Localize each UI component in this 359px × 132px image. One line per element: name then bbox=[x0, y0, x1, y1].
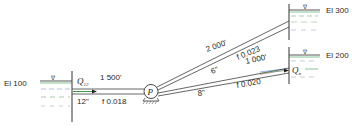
ground-hatch-icon bbox=[143, 101, 157, 104]
pump-label: P bbox=[147, 87, 154, 97]
water-surface-symbol: ∇ bbox=[50, 74, 56, 81]
flow-arrow-icon bbox=[284, 69, 289, 73]
pipe-friction-label: f 0.020 bbox=[236, 77, 262, 90]
pipe-diameter-label: 8" bbox=[197, 88, 206, 98]
reservoir-el300: ∇ El 300 bbox=[289, 3, 349, 40]
pipe-upper: 2 000' 6" f 0.023 bbox=[157, 21, 289, 90]
pump-support bbox=[143, 98, 145, 101]
pipe-lower: 8" 1 000' f 0.020 bbox=[158, 53, 289, 98]
water-surface-symbol: ∇ bbox=[302, 48, 308, 55]
reservoir-el100: ∇ El 100 bbox=[4, 71, 72, 122]
reservoir-el200: ∇ El 200 Qn bbox=[289, 47, 349, 84]
flow-arrow-icon bbox=[92, 90, 97, 94]
water-surface-symbol: ∇ bbox=[302, 3, 308, 10]
elevation-label: El 100 bbox=[4, 79, 27, 88]
pipe-friction-label: f 0.018 bbox=[102, 97, 127, 106]
pipe-diameter-label: 6" bbox=[210, 65, 220, 76]
elevation-label: El 200 bbox=[326, 51, 349, 60]
elevation-label: El 300 bbox=[326, 6, 349, 15]
pipe-network-diagram: ∇ El 100 Q12 1 500' 12" f 0.018 P 2 000'… bbox=[0, 0, 359, 132]
pipe-length-label: 2 000' bbox=[205, 38, 229, 54]
inflow-label: Q12 bbox=[77, 76, 89, 87]
pump: P bbox=[143, 85, 159, 105]
outflow-label: Qn bbox=[292, 65, 302, 76]
pipe-length-label: 1 500' bbox=[100, 73, 122, 82]
pipe-wall-top bbox=[157, 21, 289, 87]
pipe-suction: Q12 1 500' 12" f 0.018 bbox=[72, 73, 144, 106]
pipe-diameter-label: 12" bbox=[77, 97, 89, 106]
pump-support bbox=[157, 98, 159, 101]
